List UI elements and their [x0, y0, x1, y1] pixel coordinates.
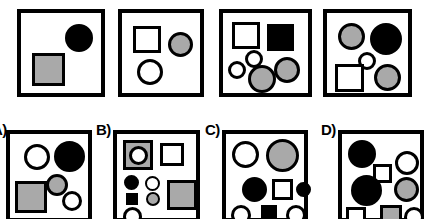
sample-panel-1-black-circle-1 — [65, 24, 93, 52]
choice-panel-c-black-square-7 — [261, 205, 277, 219]
sample-panel-2-gray-circle-2 — [168, 32, 193, 57]
choice-panel-d-black-circle-1 — [348, 140, 376, 168]
sample-panel-2 — [118, 9, 204, 97]
choice-panel-c-black-circle-3 — [242, 177, 267, 202]
choice-panel-d-gray-circle-5 — [394, 177, 419, 202]
sample-panel-4 — [323, 9, 412, 97]
sample-panel-4-black-circle-2 — [370, 23, 402, 55]
choice-panel-c-black-circle-5 — [296, 182, 311, 197]
choice-panel-b-white-circle-9 — [123, 207, 142, 219]
choice-panel-d-white-circle-3 — [395, 151, 419, 175]
choice-panel-d-label: D) — [321, 122, 336, 137]
sample-panel-3-white-square-1 — [232, 22, 260, 49]
sample-panel-3-gray-circle-6 — [248, 65, 276, 93]
choice-panel-c[interactable] — [222, 130, 308, 219]
choice-panel-d[interactable] — [338, 130, 424, 219]
sample-panel-2-white-square-1 — [133, 26, 161, 53]
sample-panel-3-gray-circle-5 — [274, 57, 300, 83]
sample-panel-4-gray-circle-5 — [374, 64, 401, 91]
choice-panel-a-black-circle-2 — [54, 141, 85, 172]
sample-panel-4-gray-circle-1 — [338, 23, 365, 50]
sample-panel-4-white-square-4 — [335, 64, 364, 92]
choice-panel-d-black-circle-4 — [351, 175, 382, 206]
sample-panel-1-gray-square-2 — [32, 53, 65, 86]
sample-panel-3-white-circle-4 — [228, 61, 246, 79]
choice-panel-a-label: A) — [0, 122, 7, 137]
choice-panel-b-black-square-6 — [126, 193, 138, 205]
choice-panel-c-gray-circle-2 — [266, 139, 299, 172]
figure-canvas: A)B)C)D) — [0, 0, 444, 219]
choice-panel-a-white-circle-1 — [24, 144, 50, 170]
choice-panel-b-gray-circle-7 — [146, 192, 160, 206]
choice-panel-b-white-circle-2 — [129, 146, 148, 165]
choice-panel-b-label: B) — [96, 122, 111, 137]
choice-panel-a-white-circle-5 — [62, 191, 82, 211]
choice-panel-a-gray-square-4 — [15, 181, 47, 213]
sample-panel-3 — [219, 9, 312, 97]
choice-panel-d-white-circle-8 — [404, 207, 424, 219]
choice-panel-b-white-circle-5 — [145, 176, 160, 191]
choice-panel-c-white-square-4 — [272, 179, 293, 200]
choice-panel-b-black-circle-4 — [124, 175, 139, 190]
sample-panel-3-black-square-2 — [267, 24, 294, 51]
choice-panel-c-white-circle-1 — [232, 141, 259, 168]
choice-panel-c-white-circle-8 — [286, 205, 306, 219]
choice-panel-b-gray-square-8 — [167, 180, 197, 210]
choice-panel-b-white-square-3 — [160, 143, 184, 166]
choice-panel-a[interactable] — [6, 130, 92, 219]
sample-panel-1 — [17, 9, 105, 97]
sample-panel-2-white-circle-3 — [137, 59, 163, 85]
choice-panel-c-label: C) — [205, 122, 220, 137]
choice-panel-d-gray-square-7 — [380, 205, 402, 219]
choice-panel-c-white-circle-6 — [231, 205, 251, 219]
choice-panel-d-white-square-6 — [346, 207, 366, 219]
choice-panel-b[interactable] — [113, 130, 200, 219]
